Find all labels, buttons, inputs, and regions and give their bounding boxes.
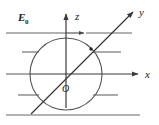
y-axis-sphere-intersection-dot [89, 47, 92, 50]
axis-y-line [31, 12, 133, 114]
physics-figure: E 0 z y x O [0, 0, 159, 125]
field-label-subscript: 0 [25, 18, 29, 26]
axis-label-x: x [144, 68, 150, 80]
axis-label-y: y [138, 6, 144, 18]
axis-label-z: z [74, 10, 80, 22]
figure-canvas: E 0 z y x O [0, 0, 159, 125]
origin-label-O: O [62, 83, 69, 94]
